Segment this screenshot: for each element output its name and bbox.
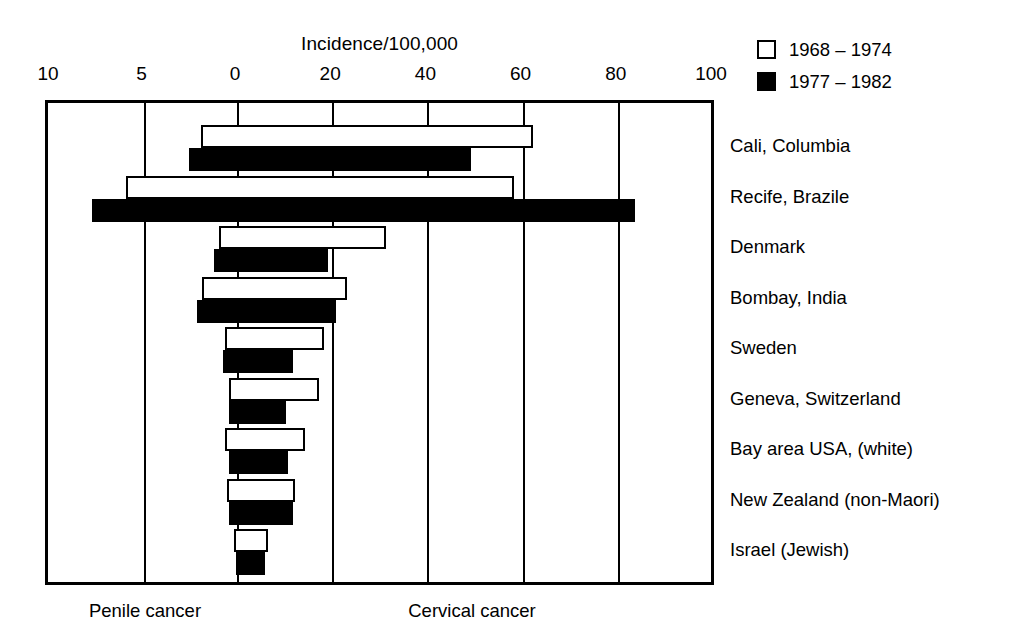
- bar-period1: [225, 327, 324, 350]
- legend-label: 1977 – 1982: [789, 71, 892, 93]
- tick-label-cervical-40: 40: [415, 63, 436, 85]
- category-label: New Zealand (non-Maori): [730, 489, 940, 511]
- bar-period1: [219, 226, 385, 249]
- bar-period2: [92, 199, 635, 222]
- bar-period1: [126, 176, 514, 199]
- bar-row: [48, 529, 711, 581]
- legend-label: 1968 – 1974: [789, 39, 892, 61]
- category-label: Israel (Jewish): [730, 539, 849, 561]
- category-label: Sweden: [730, 337, 797, 359]
- bar-row: [48, 176, 711, 228]
- chart-axis-title: Incidence/100,000: [45, 33, 714, 55]
- tick-label-penile-5: 5: [136, 63, 147, 85]
- chart-legend: 1968 – 19741977 – 1982: [757, 36, 892, 100]
- category-label: Bay area USA, (white): [730, 438, 913, 460]
- bar-period2: [189, 148, 471, 171]
- tick-label-cervical-100: 100: [695, 63, 727, 85]
- chart-page: Incidence/100,000 105020406080100 Cali, …: [0, 0, 1020, 638]
- tick-label-cervical-0: 0: [230, 63, 241, 85]
- bar-period2: [236, 552, 265, 575]
- bar-period1: [225, 428, 305, 451]
- legend-item: 1968 – 1974: [757, 36, 892, 63]
- footer-label-cervical: Cervical cancer: [408, 600, 536, 622]
- bar-period1: [229, 378, 319, 401]
- tick-label-cervical-80: 80: [605, 63, 626, 85]
- bar-row: [48, 277, 711, 329]
- bar-period2: [223, 350, 293, 373]
- category-label: Bombay, India: [730, 287, 847, 309]
- bar-period1: [202, 277, 347, 300]
- category-label: Recife, Brazile: [730, 186, 849, 208]
- bar-row: [48, 327, 711, 379]
- tick-label-cervical-20: 20: [320, 63, 341, 85]
- bar-row: [48, 479, 711, 531]
- legend-item: 1977 – 1982: [757, 68, 892, 95]
- legend-swatch-open: [757, 40, 776, 59]
- tick-label-penile-10: 10: [37, 63, 58, 85]
- category-label: Geneva, Switzerland: [730, 388, 901, 410]
- category-label: Denmark: [730, 236, 805, 258]
- bar-period2: [229, 451, 288, 474]
- bar-period2: [197, 300, 336, 323]
- footer-label-penile: Penile cancer: [89, 600, 201, 622]
- bar-period1: [234, 529, 267, 552]
- bar-row: [48, 428, 711, 480]
- bar-row: [48, 378, 711, 430]
- plot-area: [45, 100, 714, 585]
- bar-period1: [201, 125, 534, 148]
- bar-period2: [229, 401, 286, 424]
- bar-row: [48, 125, 711, 177]
- bar-period1: [227, 479, 295, 502]
- bar-row: [48, 226, 711, 278]
- legend-swatch-solid: [757, 72, 776, 91]
- category-label: Cali, Columbia: [730, 135, 850, 157]
- bar-period2: [229, 502, 293, 525]
- bar-period2: [214, 249, 329, 272]
- tick-label-cervical-60: 60: [510, 63, 531, 85]
